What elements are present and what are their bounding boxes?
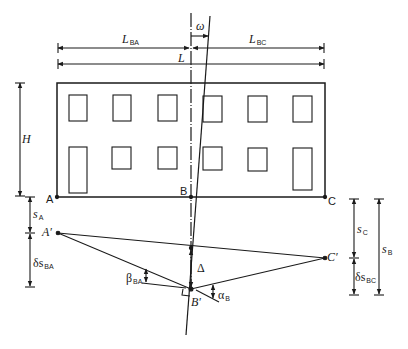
label-L-BA: LBA	[122, 33, 139, 49]
label-point-C: C	[328, 195, 336, 207]
label-L-BC: LBC	[249, 33, 266, 49]
beta-BA-angle-marker	[142, 269, 186, 288]
label-point-C-prime: C′	[327, 251, 338, 263]
label-s-A: sA	[33, 208, 43, 224]
label-point-A: A	[46, 193, 53, 205]
label-s-C: sC	[357, 223, 368, 239]
label-omega: ω	[196, 20, 204, 32]
label-point-B: B	[180, 185, 187, 197]
label-delta: Δ	[197, 262, 205, 274]
settlement-diagram	[0, 0, 408, 349]
label-ds-BC: δsBC	[355, 271, 376, 287]
label-point-A-prime: A′	[42, 226, 52, 238]
label-s-B: sB	[382, 243, 392, 259]
label-point-B-prime: B′	[191, 296, 201, 308]
label-ds-BA: δsBA	[33, 257, 54, 273]
label-alpha-B: αB	[218, 289, 230, 305]
label-H: H	[22, 133, 31, 145]
label-L: L	[178, 52, 185, 64]
label-beta-BA: βBA	[126, 272, 142, 288]
